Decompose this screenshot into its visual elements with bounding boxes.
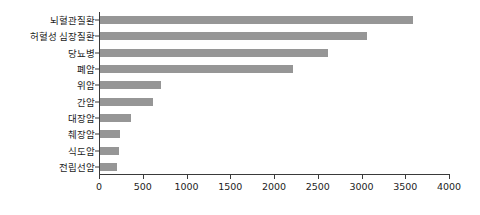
- y-axis-tick-mark: [95, 52, 99, 53]
- bar: [100, 81, 161, 89]
- x-axis-tick-mark: [449, 175, 450, 179]
- category-label: 뇌혈관질환: [50, 13, 95, 27]
- bar: [100, 163, 117, 171]
- bar-chart: 뇌혈관질환허혈성 심장질환당뇨병폐암위암간암대장암췌장암식도암전립선암 0500…: [0, 0, 480, 215]
- x-axis-tick-label: 0: [96, 181, 102, 192]
- category-label: 간암: [77, 95, 95, 109]
- x-axis-tick-mark: [99, 175, 100, 179]
- bar: [100, 49, 328, 57]
- x-axis-tick-mark: [187, 175, 188, 179]
- bar-row: 전립선암: [0, 159, 480, 175]
- bar: [100, 98, 153, 106]
- x-axis-tick-label: 3000: [349, 181, 373, 192]
- bar-row: 간암: [0, 94, 480, 110]
- bar: [100, 114, 131, 122]
- y-axis-tick-mark: [95, 134, 99, 135]
- y-axis-tick-mark: [95, 20, 99, 21]
- x-axis-tick-mark: [230, 175, 231, 179]
- bar-row: 췌장암: [0, 126, 480, 142]
- category-label: 허혈성 심장질환: [30, 29, 95, 43]
- x-axis-tick-label: 2500: [306, 181, 330, 192]
- x-axis-tick-label: 1000: [174, 181, 198, 192]
- bar: [100, 130, 120, 138]
- bar: [100, 65, 293, 73]
- category-label: 위암: [77, 78, 95, 92]
- bar-row: 뇌혈관질환: [0, 12, 480, 28]
- x-axis-tick-mark: [405, 175, 406, 179]
- category-label: 췌장암: [68, 127, 95, 141]
- x-axis-tick-label: 500: [134, 181, 152, 192]
- x-axis-tick-label: 1500: [218, 181, 242, 192]
- x-axis-tick-label: 3500: [393, 181, 417, 192]
- x-axis-ticks: 05001000150020002500300035004000: [0, 175, 480, 215]
- bar-row: 폐암: [0, 61, 480, 77]
- bar-row: 대장암: [0, 110, 480, 126]
- category-label: 전립선암: [59, 160, 95, 174]
- x-axis-tick-mark: [362, 175, 363, 179]
- y-axis-tick-mark: [95, 150, 99, 151]
- bar: [100, 16, 413, 24]
- y-axis-tick-mark: [95, 117, 99, 118]
- category-label: 당뇨병: [68, 46, 95, 60]
- y-axis-tick-mark: [95, 101, 99, 102]
- category-label: 식도암: [68, 144, 95, 158]
- bar-row: 식도암: [0, 142, 480, 158]
- y-axis-tick-mark: [95, 69, 99, 70]
- x-axis-tick-mark: [143, 175, 144, 179]
- category-label: 대장암: [68, 111, 95, 125]
- bar: [100, 147, 119, 155]
- bar-rows: 뇌혈관질환허혈성 심장질환당뇨병폐암위암간암대장암췌장암식도암전립선암: [0, 12, 480, 175]
- y-axis-tick-mark: [95, 36, 99, 37]
- y-axis-tick-mark: [95, 166, 99, 167]
- x-axis-tick-mark: [318, 175, 319, 179]
- x-axis-tick-mark: [274, 175, 275, 179]
- bar-row: 당뇨병: [0, 45, 480, 61]
- x-axis-tick-label: 4000: [437, 181, 461, 192]
- category-label: 폐암: [77, 62, 95, 76]
- bar: [100, 32, 367, 40]
- x-axis-tick-label: 2000: [262, 181, 286, 192]
- bar-row: 위암: [0, 77, 480, 93]
- bar-row: 허혈성 심장질환: [0, 28, 480, 44]
- y-axis-tick-mark: [95, 85, 99, 86]
